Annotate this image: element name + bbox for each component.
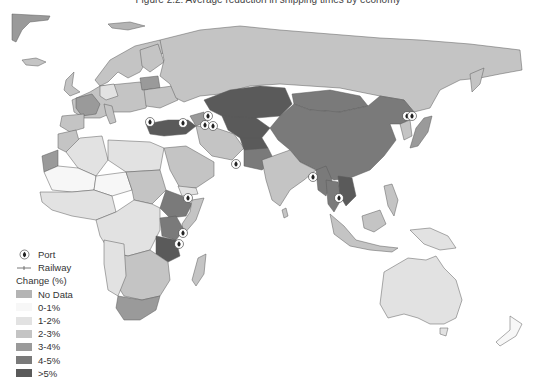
legend-class: 0-1% (16, 301, 73, 314)
region-south-africa[interactable] (116, 296, 160, 320)
port-icon[interactable] (204, 112, 213, 121)
legend-class: 1-2% (16, 314, 73, 327)
legend-class-label: 4-5% (38, 354, 60, 367)
legend-class-label: 3-4% (38, 340, 60, 353)
region-greenland[interactable] (12, 14, 50, 42)
region-sudan[interactable] (126, 170, 166, 204)
legend-class: 3-4% (16, 340, 73, 353)
region-borneo[interactable] (362, 210, 386, 232)
port-icon[interactable] (232, 160, 241, 169)
legend-swatch (16, 290, 32, 298)
legend-swatch (16, 330, 32, 338)
legend-class: No Data (16, 288, 73, 301)
region-libya-egypt[interactable] (108, 140, 164, 172)
legend-railway-label: Railway (38, 261, 71, 274)
region-west-africa[interactable] (40, 190, 116, 220)
port-icon[interactable] (179, 229, 188, 238)
legend-change-header: Change (%) (16, 274, 73, 287)
region-svalbard (108, 22, 145, 30)
legend-class: 2-3% (16, 327, 73, 340)
legend-class-label: No Data (38, 288, 73, 301)
legend-swatch (16, 369, 32, 377)
port-icon[interactable] (175, 240, 184, 249)
port-icon (16, 249, 32, 260)
region-iceland[interactable] (22, 58, 46, 66)
port-icon[interactable] (184, 194, 193, 203)
legend-class-label: >5% (38, 367, 57, 380)
port-icon[interactable] (408, 112, 417, 121)
legend-swatch (16, 303, 32, 311)
region-iberia[interactable] (60, 114, 84, 132)
port-icon[interactable] (209, 122, 218, 131)
region-uk[interactable] (64, 72, 80, 96)
legend-port: Port (16, 248, 73, 261)
legend-class-label: 2-3% (38, 327, 60, 340)
port-icon[interactable] (146, 118, 155, 127)
legend-railway: Railway (16, 261, 73, 274)
region-papua[interactable] (410, 228, 456, 250)
legend-class: >5% (16, 367, 73, 380)
region-madagascar[interactable] (192, 254, 206, 286)
legend-port-label: Port (38, 248, 55, 261)
region-japan[interactable] (410, 116, 432, 148)
port-icon[interactable] (335, 194, 344, 203)
region-new-zealand[interactable] (496, 316, 522, 346)
region-philippines[interactable] (384, 184, 398, 216)
region-australia[interactable] (380, 256, 462, 324)
world-map (0, 0, 536, 384)
port-icon[interactable] (201, 121, 210, 130)
port-icon[interactable] (179, 119, 188, 128)
region-arabia[interactable] (164, 146, 214, 188)
legend-class: 4-5% (16, 354, 73, 367)
legend-swatch (16, 343, 32, 351)
legend-swatch (16, 317, 32, 325)
port-icon[interactable] (309, 173, 318, 182)
region-tasmania[interactable] (440, 328, 448, 336)
legend-swatch (16, 356, 32, 364)
map-legend: Port Railway Change (%) No Data0-1%1-2%2… (16, 248, 73, 380)
legend-class-label: 0-1% (38, 301, 60, 314)
region-sri-lanka[interactable] (282, 208, 288, 218)
railway-icon (16, 264, 32, 272)
legend-class-label: 1-2% (38, 314, 60, 327)
